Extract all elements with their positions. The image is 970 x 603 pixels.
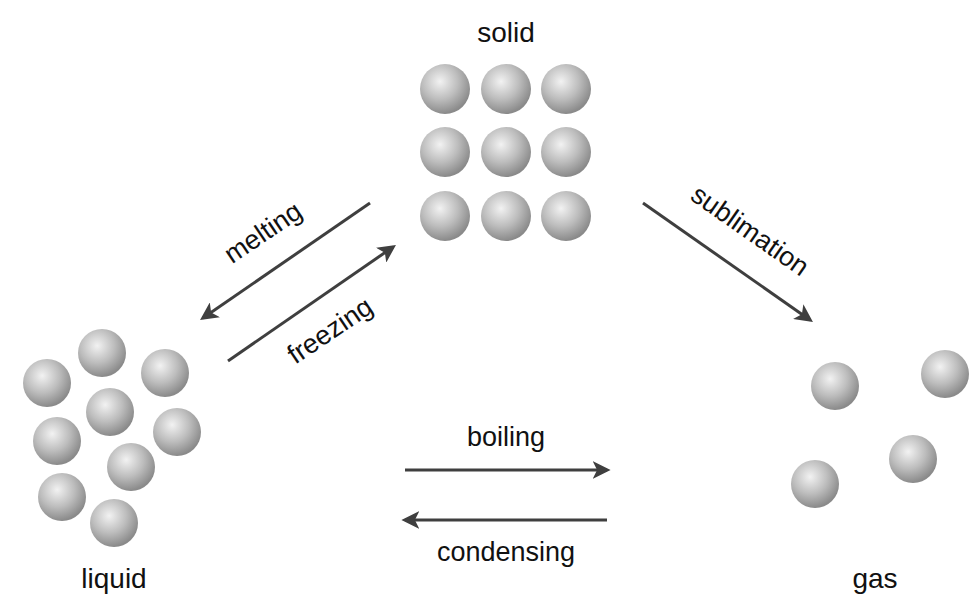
solid-particle (481, 191, 531, 241)
freezing-label: freezing (282, 291, 378, 370)
liquid-particle (33, 417, 81, 465)
solid-particle (420, 64, 470, 114)
solid-group: solid (420, 17, 591, 241)
phase-diagram: solid liquid gas melting freezing sublim… (0, 0, 970, 603)
liquid-group: liquid (23, 329, 201, 594)
solid-particle (420, 191, 470, 241)
solid-particles (420, 64, 591, 241)
boiling-label: boiling (467, 422, 545, 452)
liquid-label: liquid (81, 563, 146, 594)
solid-particle (541, 64, 591, 114)
gas-particle (811, 362, 859, 410)
liquid-particle (23, 359, 71, 407)
liquid-particle (38, 473, 86, 521)
liquid-particle (153, 408, 201, 456)
gas-particle (921, 350, 969, 398)
condensing-label: condensing (437, 537, 575, 567)
liquid-particles (23, 329, 201, 547)
solid-label: solid (477, 17, 535, 48)
solid-particle (541, 127, 591, 177)
solid-particle (541, 191, 591, 241)
gas-particle (791, 460, 839, 508)
liquid-particle (90, 499, 138, 547)
solid-particle (481, 64, 531, 114)
liquid-particle (107, 443, 155, 491)
liquid-particle (78, 329, 126, 377)
solid-particle (481, 127, 531, 177)
liquid-particle (141, 349, 189, 397)
melting-label: melting (218, 196, 307, 270)
gas-label: gas (852, 563, 897, 594)
gas-particles (791, 350, 969, 508)
solid-particle (420, 127, 470, 177)
liquid-particle (86, 388, 134, 436)
gas-particle (889, 435, 937, 483)
gas-group: gas (791, 350, 969, 594)
sublimation-label: sublimation (686, 179, 815, 282)
diagram-canvas: solid liquid gas melting freezing sublim… (0, 0, 970, 603)
